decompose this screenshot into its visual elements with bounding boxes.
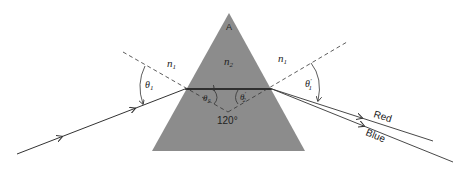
n1-right-label: n1 xyxy=(278,52,287,66)
red-ray-arrow xyxy=(272,89,362,118)
apex-label: A xyxy=(226,22,232,32)
incident-ray-arrow-1 xyxy=(17,137,62,154)
theta1-label: θ1 xyxy=(145,79,153,92)
angle-120-label: 120° xyxy=(217,115,238,126)
red-ray-label: Red xyxy=(372,108,393,124)
theta1p-arc xyxy=(311,63,319,101)
prism-dispersion-diagram: A n1 n2 n1 θ1 θ2 θ′2 θ′1 120° Red Blue xyxy=(0,0,459,171)
n1-left-label: n1 xyxy=(167,57,176,71)
theta2-prime-label: θ′2 xyxy=(240,91,246,103)
incident-ray-arrow-2 xyxy=(62,108,135,136)
blue-ray-label: Blue xyxy=(364,127,387,145)
theta1-prime-label: θ′1 xyxy=(305,77,312,92)
